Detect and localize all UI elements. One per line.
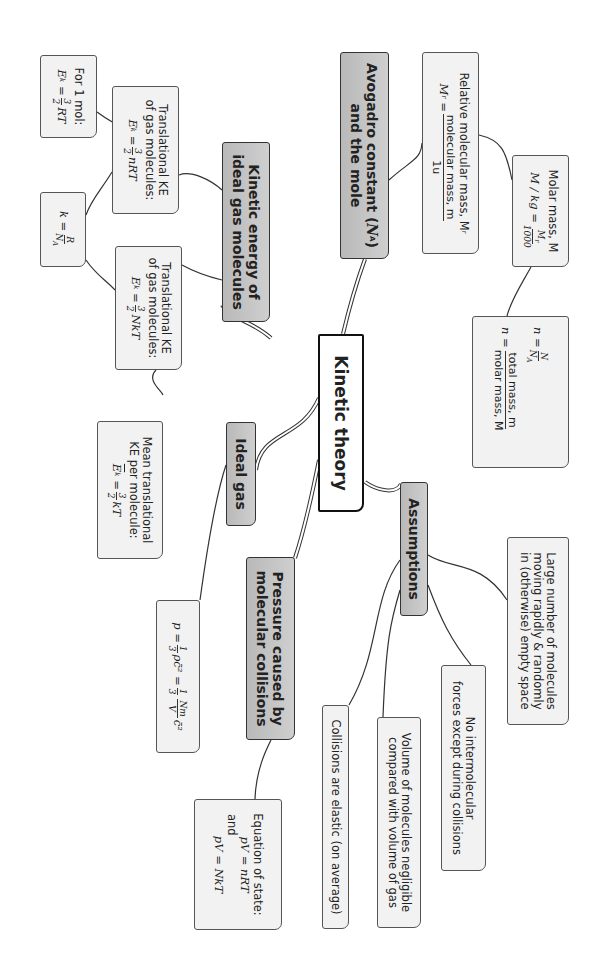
leaf-text: For 1 mol:	[73, 68, 86, 126]
leaf-translational-ke-nkt[interactable]: Translational KE of gas molecules: Ek = …	[115, 246, 182, 370]
leaf-equation-of-state[interactable]: Equation of state: pV = nRT and pV = NkT	[194, 799, 282, 930]
leaf-text: Mean translational	[141, 436, 154, 543]
leaf-text: Equation of state:	[251, 813, 264, 915]
root-link-avogadro	[343, 259, 365, 334]
formula-ek-nrt: Ek = 32 nRT	[122, 119, 143, 180]
formula-n-mass: n = total mass, mmolar mass, M	[492, 327, 519, 432]
root-link-assumptions	[365, 482, 401, 490]
branch-assumptions[interactable]: Assumptions	[400, 482, 428, 616]
leaf-text: and	[225, 800, 238, 836]
formula-ek-nkt: Ek = 32 NkT	[125, 277, 146, 339]
leaf-molar-mass[interactable]: Molar mass, M M / kg = Mr1000	[512, 155, 569, 267]
formula-n-avogadro: n = NNA	[525, 327, 550, 365]
leaf-assumption-elastic-collisions[interactable]: Collisions are elastic (on average)	[322, 705, 349, 929]
leaf-text: Translational KE	[159, 262, 172, 353]
formula-mr: Mr = molecular mass, m1u	[431, 83, 458, 222]
leaf-text: Collisions are elastic (on average)	[329, 719, 342, 914]
formula-k: k = RNA	[51, 211, 76, 248]
leaf-pressure-formula[interactable]: p = 13 ρc̄² = 13 NmV c̄²	[156, 600, 200, 753]
branch-avogadro[interactable]: Avogadro constant (NA) and the mole	[340, 52, 389, 259]
branch-kinetic-energy[interactable]: Kinetic energy of ideal gas molecules	[222, 142, 270, 322]
leaf-text: of gas molecules:	[146, 258, 159, 359]
leaf-text: compared with volume of gas	[386, 737, 399, 908]
formula-mean-ek: Ek = 32 kT	[107, 464, 128, 516]
branch-pressure[interactable]: Pressure caused by molecular collisions	[246, 557, 295, 740]
root-link-pressure	[295, 460, 319, 558]
branch-label-line2: molecular collisions	[255, 570, 271, 726]
root-node-kinetic-theory[interactable]: Kinetic theory	[318, 334, 364, 512]
leaf-text: Relative molecular mass, Mr	[458, 72, 471, 233]
formula-pv-nkt: pV = NkT	[212, 836, 225, 893]
leaf-text: moving rapidly & randomly	[532, 553, 545, 710]
branch-ideal-gas[interactable]: Ideal gas	[226, 422, 256, 526]
leaf-assumption-volume-negligible[interactable]: Volume of molecules negligible compared …	[377, 717, 421, 928]
branch-label-line1: Kinetic energy of	[246, 164, 262, 299]
formula-pv-nrt: pV = nRT	[238, 836, 251, 892]
connector-lines	[0, 0, 601, 980]
leaf-one-mol[interactable]: For 1 mol: Ek = 32 RT	[40, 55, 97, 138]
leaf-text: Volume of molecules negligible	[399, 733, 412, 912]
formula-molar-mass: M / kg = Mr1000	[522, 172, 547, 250]
branch-label-line2: and the mole	[349, 104, 365, 208]
branch-label: Ideal gas	[233, 438, 249, 510]
leaf-amount-of-substance[interactable]: n = NNA n = total mass, mmolar mass, M	[472, 316, 569, 468]
leaf-text: in (otherwise) empty space	[519, 552, 532, 709]
leaf-text: Large number of molecules	[545, 552, 558, 710]
mind-map-canvas: Kinetic theory Kinetic energy of ideal g…	[0, 0, 601, 980]
leaf-text: Molar mass, M	[546, 169, 559, 252]
leaf-text: Translational KE	[156, 104, 169, 195]
leaf-text: of gas molecules:	[143, 100, 156, 201]
leaf-text: No intermolecular	[464, 717, 477, 820]
leaf-translational-ke-nrt[interactable]: Translational KE of gas molecules: Ek = …	[112, 86, 179, 214]
branch-label-line1: Avogadro constant (NA)	[365, 63, 381, 248]
leaf-relative-molecular-mass[interactable]: Relative molecular mass, Mr Mr = molecul…	[422, 52, 479, 254]
leaf-text: forces except during collisions	[451, 681, 464, 855]
branch-label: Assumptions	[406, 498, 422, 600]
root-link-ideal-gas	[256, 398, 319, 470]
formula-pressure: p = 13 ρc̄² = 13 NmV c̄²	[168, 622, 189, 731]
leaf-assumption-no-forces[interactable]: No intermolecular forces except during c…	[441, 665, 486, 871]
leaf-mean-translational-ke[interactable]: Mean translational KE per molecule: Ek =…	[97, 421, 163, 559]
leaf-boltzmann-constant[interactable]: k = RNA	[40, 192, 86, 267]
formula-ek-rt: Ek = 32 RT	[52, 70, 73, 124]
branch-label-line2: ideal gas molecules	[230, 154, 246, 310]
leaf-assumption-large-number[interactable]: Large number of molecules moving rapidly…	[507, 537, 569, 725]
root-label: Kinetic theory	[331, 355, 351, 491]
branch-label-line1: Pressure caused by	[271, 571, 287, 725]
leaf-text: KE per molecule:	[128, 441, 141, 539]
